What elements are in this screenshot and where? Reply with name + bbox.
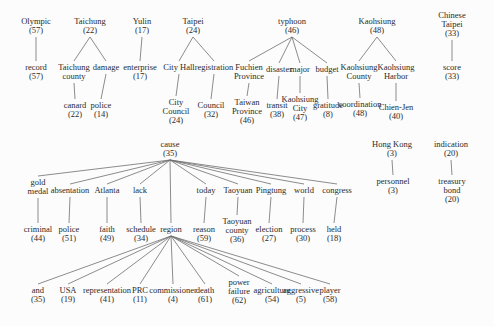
edge-cause-congress bbox=[170, 160, 337, 184]
node-criminal: criminal(44) bbox=[24, 225, 52, 243]
edge-congress-held bbox=[334, 197, 337, 223]
node-damage: damage bbox=[93, 63, 119, 72]
node-election: election(27) bbox=[256, 225, 283, 243]
node-world: world bbox=[294, 186, 314, 195]
node-player: player(58) bbox=[319, 286, 340, 304]
node-label-line: disaster bbox=[266, 65, 292, 74]
node-region: region bbox=[160, 225, 182, 234]
node-city-hall: City Hall bbox=[163, 63, 194, 72]
edge-cause-region bbox=[170, 160, 171, 223]
node-held: held(18) bbox=[327, 225, 342, 243]
node-label-line: absentation bbox=[51, 186, 90, 195]
edge-world-process bbox=[303, 197, 304, 223]
edge-typhoon-budget bbox=[292, 37, 327, 63]
node-label-line: damage bbox=[93, 63, 119, 72]
node-indication: indication(20) bbox=[434, 140, 468, 158]
edge-region-representation bbox=[107, 236, 171, 284]
node-label-line: Pingtung bbox=[256, 186, 287, 195]
node-label-line: (4) bbox=[149, 295, 197, 304]
node-label-line: (57) bbox=[25, 72, 47, 81]
node-label-line: (20) bbox=[438, 195, 465, 204]
node-usa: USA(19) bbox=[59, 286, 76, 304]
node-taoyuan-county: Taoyuancounty(36) bbox=[222, 217, 251, 244]
edge-taichung-damage bbox=[90, 37, 106, 61]
edge-city-hall-city-council bbox=[176, 74, 179, 96]
node-record: record(57) bbox=[25, 63, 47, 81]
node-aggressive: aggressive(5) bbox=[283, 286, 319, 304]
node-label-line: (35) bbox=[161, 149, 180, 158]
node-commissioner: commissioner(4) bbox=[149, 286, 197, 304]
node-yulin: Yulin(17) bbox=[133, 17, 151, 35]
node-label-line: (62) bbox=[228, 296, 250, 305]
edge-region-commissioner bbox=[171, 236, 173, 284]
node-label-line: (61) bbox=[196, 295, 214, 304]
node-kaohsiung-county: KaohsiungCounty bbox=[341, 63, 378, 81]
edge-taipei-registration bbox=[193, 37, 214, 61]
node-kaohsiung-harbor: KaohsiungHarbor bbox=[378, 63, 415, 81]
node-taipei: Taipei(24) bbox=[182, 17, 203, 35]
node-chien-jen: Chien-Jen(40) bbox=[379, 103, 413, 121]
edge-kaohsiung-kaohsiung-county bbox=[359, 37, 377, 61]
node-disaster: disaster bbox=[266, 65, 292, 74]
node-label-line: (34) bbox=[126, 234, 156, 243]
node-label-line: Harbor bbox=[378, 72, 415, 81]
node-city-council: CityCouncil(24) bbox=[163, 98, 190, 125]
node-label-line: (58) bbox=[319, 295, 340, 304]
node-faith: faith(49) bbox=[99, 225, 115, 243]
node-label-line: (5) bbox=[283, 295, 319, 304]
node-label-line: (44) bbox=[24, 234, 52, 243]
node-label-line: (59) bbox=[193, 234, 215, 243]
edge-yulin-enterprise bbox=[140, 37, 142, 61]
node-label-line: (20) bbox=[434, 149, 468, 158]
node-label-line: (33) bbox=[438, 29, 465, 38]
node-label-line: (24) bbox=[163, 116, 190, 125]
node-label-line: (3) bbox=[376, 186, 409, 195]
node-budget: budget bbox=[315, 65, 338, 74]
node-label-line: congress bbox=[322, 186, 352, 195]
node-label-line: (33) bbox=[443, 72, 461, 81]
node-hong-kong: Hong Kong(3) bbox=[372, 140, 412, 158]
node-cause: cause(35) bbox=[161, 140, 180, 158]
node-fuchien-province: FuchienProvince bbox=[234, 63, 264, 81]
edge-region-death bbox=[171, 236, 205, 284]
node-registration: registration bbox=[195, 63, 234, 72]
node-prc: PRC(11) bbox=[132, 286, 148, 304]
node-label-line: medal bbox=[28, 187, 49, 196]
node-label-line: budget bbox=[315, 65, 338, 74]
edge-disaster-transit bbox=[277, 76, 279, 99]
node-taichung: Taichung(22) bbox=[74, 17, 106, 35]
node-label-line: (48) bbox=[339, 109, 382, 118]
edge-taichung-taichung-county bbox=[74, 37, 90, 61]
node-enterprise: enterprise(17) bbox=[123, 63, 157, 81]
node-label-line: region bbox=[160, 225, 182, 234]
node-label-line: major bbox=[290, 65, 310, 74]
edge-kaohsiung-kaohsiung-harbor bbox=[377, 37, 396, 61]
node-label-line: (14) bbox=[91, 110, 112, 119]
node-council: Council(32) bbox=[198, 101, 225, 119]
node-coordination: coordination(48) bbox=[339, 100, 382, 118]
node-gold-medal: goldmedal bbox=[28, 178, 49, 196]
node-personnel: personnel(3) bbox=[376, 177, 409, 195]
node-label-line: (22) bbox=[64, 110, 87, 119]
node-absentation: absentation bbox=[51, 186, 90, 195]
node-label-line: (57) bbox=[21, 26, 51, 35]
node-process: process(30) bbox=[290, 225, 316, 243]
node-label-line: world bbox=[294, 186, 314, 195]
edge-hong-kong-personnel bbox=[392, 160, 393, 175]
node-label-line: City Hall bbox=[163, 63, 194, 72]
node-power-failure: powerfailure(62) bbox=[228, 278, 250, 305]
node-label-line: Taoyuan bbox=[223, 186, 252, 195]
node-atlanta: Atlanta bbox=[94, 186, 119, 195]
edge-today-reason bbox=[204, 197, 206, 223]
node-label-line: (24) bbox=[182, 26, 203, 35]
node-label-line: (22) bbox=[74, 26, 106, 35]
node-label-line: (46) bbox=[232, 116, 262, 125]
node-label-line: (3) bbox=[372, 149, 412, 158]
node-label-line: today bbox=[197, 186, 216, 195]
node-today: today bbox=[197, 186, 216, 195]
node-police-14: police(14) bbox=[91, 101, 112, 119]
edge-taipei-city-hall bbox=[179, 37, 193, 61]
node-police-51: police(51) bbox=[59, 225, 80, 243]
edge-fuchien-province-taiwan-province bbox=[247, 83, 249, 96]
node-canard: canard(22) bbox=[64, 101, 87, 119]
